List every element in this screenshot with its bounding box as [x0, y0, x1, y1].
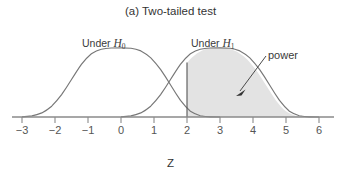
x-tick-label: 1: [141, 124, 167, 136]
x-tick-label: 5: [273, 124, 299, 136]
x-tick-label: 2: [174, 124, 200, 136]
curve-label-under-h1: Under H1: [191, 38, 235, 50]
curve-label-h1-prefix: Under: [191, 37, 223, 49]
curve-label-h0-subscript: 0: [122, 42, 126, 51]
power-annotation-label: power: [268, 50, 298, 61]
x-tick-label: 6: [306, 124, 332, 136]
x-tick-label: −1: [75, 124, 101, 136]
x-axis-ticks: [22, 117, 319, 123]
curve-label-h1-variable: H: [223, 37, 231, 49]
x-tick-label: 4: [240, 124, 266, 136]
chart-title: (a) Two-tailed test: [0, 6, 341, 18]
curve-label-h1-subscript: 1: [231, 42, 235, 51]
x-tick-label: 0: [108, 124, 134, 136]
x-tick-label: −3: [9, 124, 35, 136]
figure-two-tailed-test: (a) Two-tailed test Under H0 Under H1 po…: [0, 0, 341, 182]
curve-label-h0-variable: H: [114, 37, 122, 49]
x-axis-title: Z: [0, 158, 341, 170]
curve-label-under-h0: Under H0: [82, 38, 126, 50]
x-tick-label: −2: [42, 124, 68, 136]
distribution-plot: [0, 0, 341, 182]
curve-label-h0-prefix: Under: [82, 37, 114, 49]
power-shaded-region: [187, 47, 341, 117]
x-tick-label: 3: [207, 124, 233, 136]
